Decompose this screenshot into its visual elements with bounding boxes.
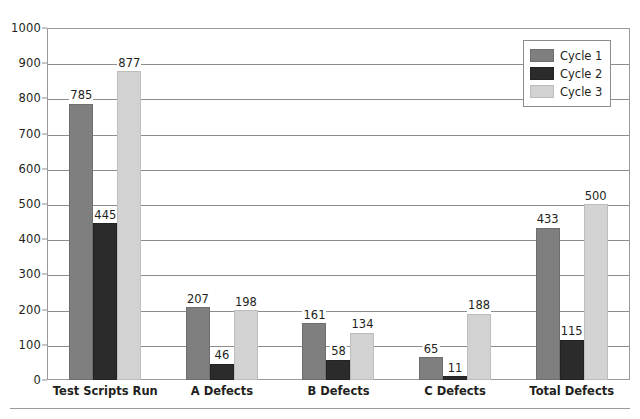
bar[interactable] — [467, 314, 491, 380]
y-tick-label-500: 500 — [18, 197, 41, 211]
legend-swatch-icon — [530, 67, 554, 80]
bar-value-label: 58 — [330, 346, 347, 358]
bar-value-label: 115 — [560, 326, 584, 338]
bar[interactable] — [560, 340, 584, 380]
y-tick-label-1000: 1000 — [11, 21, 41, 35]
x-tick-label: A Defects — [191, 384, 253, 398]
x-axis: Test Scripts RunA DefectsB DefectsC Defe… — [47, 382, 630, 404]
bar-value-label: 445 — [93, 210, 117, 222]
bar-value-label: 433 — [536, 214, 560, 226]
bar[interactable] — [302, 323, 326, 380]
bar[interactable] — [326, 360, 350, 380]
bar-group: 785445877 — [47, 28, 164, 380]
bar[interactable] — [210, 364, 234, 380]
legend-label: Cycle 3 — [560, 85, 602, 99]
bar-group: 6511188 — [397, 28, 514, 380]
bar[interactable] — [93, 223, 117, 380]
legend-label: Cycle 1 — [560, 49, 602, 63]
y-tick-label-400: 400 — [18, 232, 41, 246]
bar-value-label: 877 — [117, 58, 141, 70]
bar[interactable] — [186, 307, 210, 380]
bar-value-label: 785 — [69, 90, 93, 102]
legend-label: Cycle 2 — [560, 67, 602, 81]
y-tick-label-100: 100 — [18, 338, 41, 352]
y-tick-label-700: 700 — [18, 127, 41, 141]
x-tick-label: Test Scripts Run — [53, 384, 158, 398]
legend-swatch-icon — [530, 85, 554, 98]
bar-value-label: 207 — [186, 294, 210, 306]
y-tick-label-800: 800 — [18, 91, 41, 105]
y-tick-label-0: 0 — [33, 373, 41, 387]
bar-value-label: 65 — [423, 344, 440, 356]
x-tick-label: C Defects — [424, 384, 486, 398]
legend-item[interactable]: Cycle 2 — [530, 65, 604, 82]
bar[interactable] — [350, 333, 374, 380]
bar-value-label: 134 — [351, 319, 375, 331]
bar-value-label: 198 — [234, 297, 258, 309]
bar[interactable] — [536, 228, 560, 380]
bar-value-label: 11 — [447, 363, 464, 375]
bar-value-label: 161 — [303, 310, 327, 322]
chart-legend: Cycle 1Cycle 2Cycle 3 — [523, 40, 611, 107]
y-tick-label-200: 200 — [18, 303, 41, 317]
x-tick-label: B Defects — [307, 384, 369, 398]
x-tick-label: Total Defects — [529, 384, 614, 398]
y-tick-label-900: 900 — [18, 56, 41, 70]
y-axis: 01002003004005006007008009001000 — [0, 28, 47, 380]
y-tick-label-600: 600 — [18, 162, 41, 176]
bar[interactable] — [234, 310, 258, 380]
legend-item[interactable]: Cycle 1 — [530, 47, 604, 64]
bar-value-label: 500 — [584, 191, 608, 203]
bar[interactable] — [117, 71, 141, 380]
bar[interactable] — [419, 357, 443, 380]
bar[interactable] — [584, 204, 608, 380]
legend-swatch-icon — [530, 49, 554, 62]
bar-group: 16158134 — [280, 28, 397, 380]
bar-value-label: 46 — [214, 350, 231, 362]
bottom-divider — [10, 408, 630, 409]
bar-value-label: 188 — [467, 300, 491, 312]
bar[interactable] — [69, 104, 93, 380]
bar[interactable] — [443, 376, 467, 380]
legend-item[interactable]: Cycle 3 — [530, 83, 604, 100]
bar-group: 20746198 — [164, 28, 281, 380]
y-tick-label-300: 300 — [18, 267, 41, 281]
chart-canvas: 01002003004005006007008009001000 7854458… — [0, 0, 640, 419]
